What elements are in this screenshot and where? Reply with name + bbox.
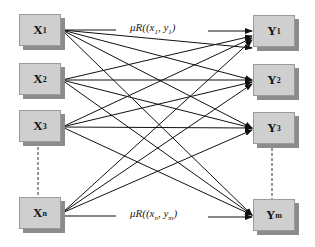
ellipsis-connectors xyxy=(38,147,272,199)
node-subscript: 1 xyxy=(277,27,281,36)
edges xyxy=(62,30,252,217)
node-label: Y xyxy=(267,120,276,136)
output-node-ym: Ym xyxy=(253,199,295,231)
node-subscript: 1 xyxy=(43,26,47,35)
node-label: X xyxy=(33,71,42,87)
label-mid: , y xyxy=(158,21,168,33)
node-subscript: 2 xyxy=(277,76,281,85)
node-label: Y xyxy=(267,72,276,88)
node-label: X xyxy=(33,118,42,134)
node-label: X xyxy=(33,22,42,38)
node-label: Y xyxy=(266,207,275,223)
node-subscript: n xyxy=(42,209,46,218)
input-node-x1: X1 xyxy=(19,14,61,46)
output-node-y1: Y1 xyxy=(253,15,295,47)
node-label: Y xyxy=(267,23,276,39)
label-suffix: ) xyxy=(173,207,177,219)
label-prefix: μR((x xyxy=(130,207,154,219)
node-subscript: 3 xyxy=(277,124,281,133)
label-suffix: ) xyxy=(172,21,176,33)
relation-label-top: μR((x1, y1) xyxy=(130,21,176,36)
node-subscript: 2 xyxy=(43,75,47,84)
relation-label-bottom: μR((xn, ym) xyxy=(130,207,177,222)
node-subscript: 3 xyxy=(43,122,47,131)
input-node-x3: X3 xyxy=(19,110,61,142)
label-prefix: μR((x xyxy=(130,21,154,33)
output-node-y2: Y2 xyxy=(253,64,295,96)
node-label: X xyxy=(33,205,42,221)
input-node-x2: X2 xyxy=(19,63,61,95)
input-node-xn: Xn xyxy=(19,197,61,229)
output-node-y3: Y3 xyxy=(253,112,295,144)
node-subscript: m xyxy=(275,211,282,220)
label-mid: , y xyxy=(158,207,168,219)
